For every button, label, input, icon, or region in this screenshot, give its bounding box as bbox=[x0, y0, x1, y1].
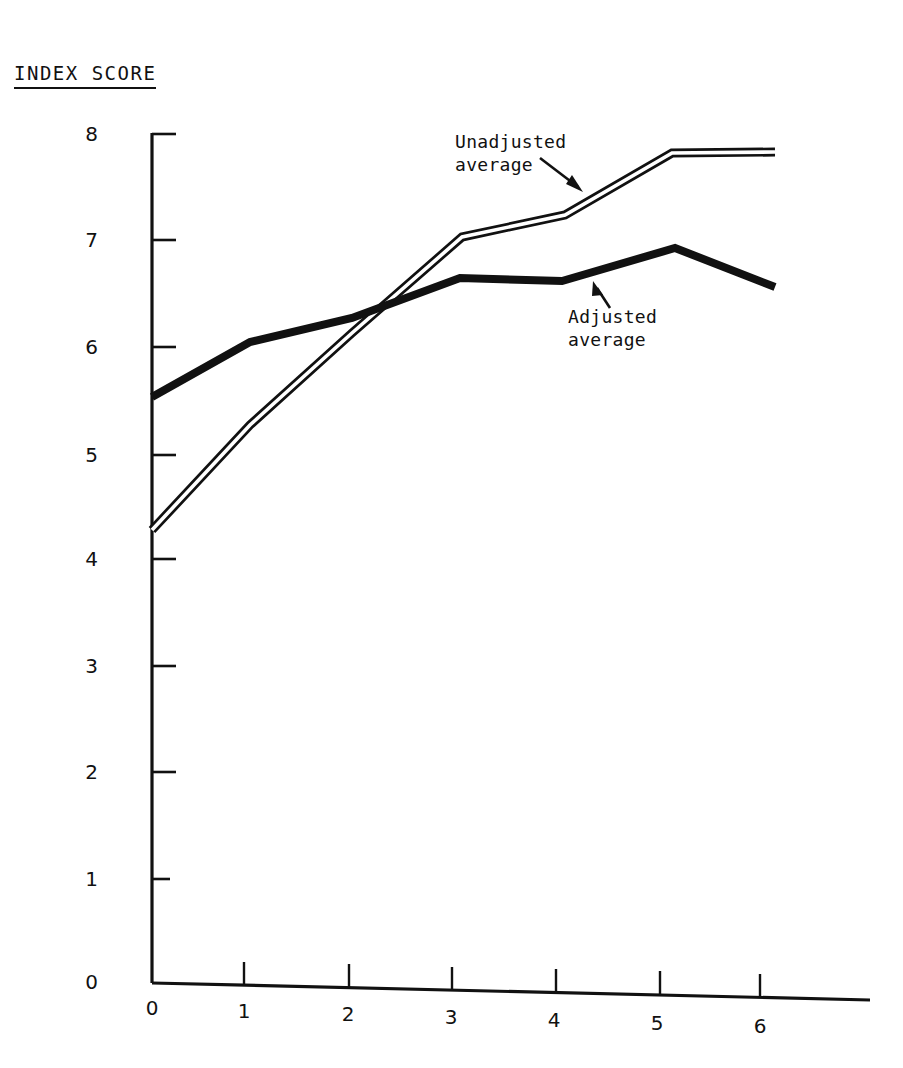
leader-arrow-unadjusted bbox=[540, 158, 583, 192]
series-adjusted-average bbox=[152, 248, 775, 397]
arrowhead-adjusted bbox=[592, 281, 603, 296]
arrowhead-unadjusted bbox=[566, 175, 583, 192]
chart-figure: INDEX SCORE 8 7 6 5 4 3 2 1 0 0 1 2 3 4 … bbox=[0, 0, 903, 1068]
plot-area bbox=[0, 0, 903, 1068]
leader-arrow-adjusted bbox=[592, 281, 610, 308]
x-axis-line bbox=[152, 983, 870, 1000]
